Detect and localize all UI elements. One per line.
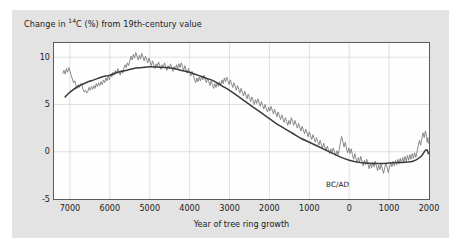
x-axis-ticks: 7000600050004000300020001000010002000 <box>53 203 430 217</box>
y-axis-ticks: 1050-5 <box>26 42 50 200</box>
x-axis-label: Year of tree ring growth <box>53 219 430 229</box>
bc-ad-annotation: BC/AD <box>326 180 349 189</box>
trend-line <box>65 67 428 164</box>
y-tick-label: 10 <box>28 52 50 62</box>
x-tick-label: 1000 <box>379 203 400 213</box>
chart-title-superscript: 14 <box>68 17 76 24</box>
series-layer <box>63 52 429 173</box>
x-tick-label: 4000 <box>179 203 200 213</box>
x-tick-label: 2000 <box>419 203 440 213</box>
x-tick-label: 3000 <box>219 203 240 213</box>
figure-root: Change in 14C (%) from 19th-century valu… <box>0 0 461 248</box>
x-tick-label: 2000 <box>259 203 280 213</box>
data-line <box>63 52 429 173</box>
x-tick-label: 0 <box>347 203 352 213</box>
x-tick-label: 1000 <box>299 203 320 213</box>
x-tick-label: 6000 <box>100 203 121 213</box>
plot-svg <box>54 43 429 199</box>
x-tick-label: 5000 <box>139 203 160 213</box>
y-tick-label: 5 <box>28 99 50 109</box>
chart-title: Change in 14C (%) from 19th-century valu… <box>24 19 202 29</box>
y-tick-label: -5 <box>28 194 50 204</box>
x-tick-label: 7000 <box>60 203 81 213</box>
gridlines <box>54 43 429 199</box>
plot-area <box>53 42 430 200</box>
chart-title-prefix: Change in <box>24 19 68 29</box>
chart-title-suffix: C (%) from 19th-century value <box>76 19 202 29</box>
y-tick-label: 0 <box>28 146 50 156</box>
